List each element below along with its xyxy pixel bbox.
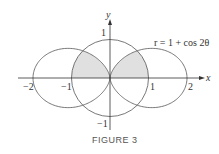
x-axis-arrow-icon — [199, 76, 205, 80]
x-tick-2: 2 — [188, 81, 193, 92]
y-tick-1: 1 — [101, 27, 106, 38]
x-tick-neg2: −2 — [23, 81, 34, 92]
equation-label: r = 1 + cos 2θ — [154, 37, 209, 48]
x-axis-label: x — [205, 72, 211, 83]
x-tick-neg1: −1 — [61, 81, 72, 92]
y-axis-label: y — [105, 9, 111, 20]
figure-caption: FIGURE 3 — [92, 135, 138, 145]
x-tick-1: 1 — [150, 81, 155, 92]
y-tick-neg1: −1 — [97, 118, 108, 129]
polar-figure: x y −2 −1 1 2 1 −1 r = 1 + cos 2θ FIGURE… — [0, 0, 219, 154]
